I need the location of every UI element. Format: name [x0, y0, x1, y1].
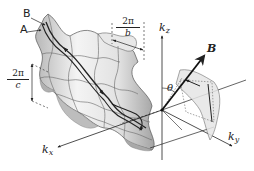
orbit-b-label: B	[23, 8, 31, 19]
kz-k: k	[159, 21, 166, 34]
period-c-numerator: 2π	[7, 69, 29, 80]
fermi-surface-diagram: B A 2π b 2π c kz B θ kx ky	[0, 0, 254, 171]
kz-sub: z	[166, 26, 170, 35]
period-b-denominator: b	[116, 28, 140, 38]
kz-label: kz	[159, 22, 170, 35]
period-b-label: 2π b	[116, 17, 140, 38]
orbit-a-text: A	[20, 23, 28, 36]
theta-text: θ	[167, 82, 173, 93]
ky-k: k	[228, 130, 235, 143]
kx-label: kx	[42, 144, 53, 157]
origin-point	[160, 108, 163, 111]
orbit-a-label: A	[20, 24, 28, 35]
kx-sub: x	[49, 148, 53, 157]
field-b-text: B	[207, 42, 216, 55]
orbit-b-text: B	[23, 7, 31, 20]
kx-k: k	[42, 143, 49, 156]
period-c-denominator: c	[7, 80, 29, 90]
period-b-numerator: 2π	[116, 17, 140, 28]
theta-label: θ	[167, 83, 173, 93]
field-b-label: B	[207, 43, 216, 54]
period-c-label: 2π c	[7, 69, 29, 90]
ky-label: ky	[228, 131, 239, 144]
orbit-plane	[162, 70, 220, 140]
ky-sub: y	[235, 135, 239, 144]
